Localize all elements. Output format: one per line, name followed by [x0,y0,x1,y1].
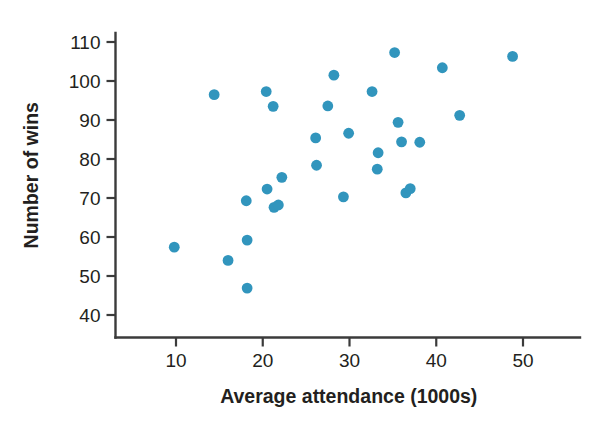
plot-canvas: 405060708090100110 1020304050 Average at… [0,0,596,431]
x-tick-label: 40 [426,350,447,371]
x-axis-ticks: 1020304050 [165,338,533,371]
data-point [276,172,287,183]
data-point [454,110,465,121]
data-point [328,70,339,81]
axis-spines [116,33,581,338]
data-point [338,191,349,202]
data-point [241,195,252,206]
data-point [343,128,354,139]
y-tick-label: 110 [70,32,100,53]
y-tick-label: 50 [79,266,100,287]
data-points-layer [169,47,518,293]
data-point [242,283,253,294]
y-tick-label: 60 [79,227,100,248]
y-tick-label: 70 [79,188,100,209]
y-tick-label: 100 [69,71,101,92]
data-point [311,160,322,171]
data-point [310,133,321,144]
data-point [261,86,272,97]
x-tick-label: 20 [252,350,273,371]
data-point [223,255,234,266]
x-axis-title: Average attendance (1000s) [220,385,477,407]
data-point [169,242,180,253]
data-point [209,89,220,100]
y-axis-ticks: 405060708090100110 [69,32,116,326]
data-point [389,47,400,58]
x-tick-label: 10 [165,350,186,371]
y-tick-label: 90 [79,110,100,131]
data-point [396,136,407,147]
data-point [373,147,384,158]
data-point [273,200,284,211]
data-point [437,62,448,73]
x-tick-label: 30 [339,350,360,371]
data-point [372,164,383,175]
y-axis-title: Number of wins [20,102,42,248]
y-tick-label: 40 [79,305,100,326]
data-point [507,51,518,62]
data-point [242,235,253,246]
data-point [367,86,378,97]
data-point [262,184,273,195]
scatter-plot-figure: 405060708090100110 1020304050 Average at… [0,0,596,431]
data-point [414,137,425,148]
y-tick-label: 80 [79,149,100,170]
data-point [393,117,404,128]
data-point [322,101,333,112]
data-point [268,101,279,112]
data-point [405,183,416,194]
x-tick-label: 50 [512,350,533,371]
